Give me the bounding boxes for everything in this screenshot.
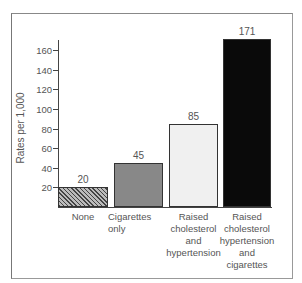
- y-tick-label: 140: [36, 65, 52, 76]
- y-tick-label: 120: [36, 84, 52, 95]
- y-tick-label: 100: [36, 104, 52, 115]
- x-category-label-line: cholesterol: [217, 223, 277, 235]
- x-category-label-line: cholesterol: [163, 223, 224, 235]
- x-category-label-line: Raised: [217, 211, 277, 223]
- y-tick-label: 20: [41, 182, 52, 193]
- y-axis-label: Rates per 1,000: [15, 92, 26, 163]
- bar-value-label: 171: [223, 26, 271, 37]
- y-tick: [53, 148, 58, 149]
- y-tick: [53, 50, 58, 51]
- bar: [58, 187, 108, 207]
- y-tick: [53, 129, 58, 130]
- y-tick-label: 80: [41, 124, 52, 135]
- x-category-label-line: and: [163, 235, 224, 247]
- y-tick: [53, 168, 58, 169]
- bar-value-label: 85: [169, 111, 218, 122]
- x-axis-baseline: [58, 207, 272, 208]
- bar-value-label: 20: [58, 174, 108, 185]
- bar: [169, 124, 218, 207]
- x-category-label-line: Cigarettes: [108, 211, 169, 223]
- y-tick-label: 160: [36, 45, 52, 56]
- x-category-label-line: and: [217, 247, 277, 259]
- bar: [114, 163, 163, 207]
- x-category-label-line: Raised: [163, 211, 224, 223]
- y-tick: [53, 109, 58, 110]
- x-category-label: Raisedcholesterolhypertensionandcigarett…: [217, 211, 277, 271]
- bar-value-label: 45: [114, 150, 163, 161]
- x-category-label: None: [52, 211, 114, 223]
- y-tick: [53, 70, 58, 71]
- bar: [223, 39, 271, 207]
- y-tick-label: 40: [41, 163, 52, 174]
- x-category-label: Cigarettesonly: [108, 211, 169, 235]
- x-category-label-line: cigarettes: [217, 259, 277, 271]
- x-category-label: Raisedcholesterolandhypertension: [163, 211, 224, 259]
- x-category-label-line: hypertension: [163, 247, 224, 259]
- y-tick: [53, 89, 58, 90]
- y-tick-label: 60: [41, 143, 52, 154]
- x-category-label-line: hypertension: [217, 235, 277, 247]
- x-category-label-line: only: [108, 223, 169, 235]
- x-category-label-line: None: [52, 211, 114, 223]
